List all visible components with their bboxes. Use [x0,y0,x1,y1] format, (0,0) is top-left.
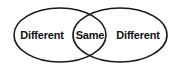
right-only-label: Different [116,29,159,41]
left-only-label: Different [20,29,63,41]
intersection-label: Same [76,29,105,41]
